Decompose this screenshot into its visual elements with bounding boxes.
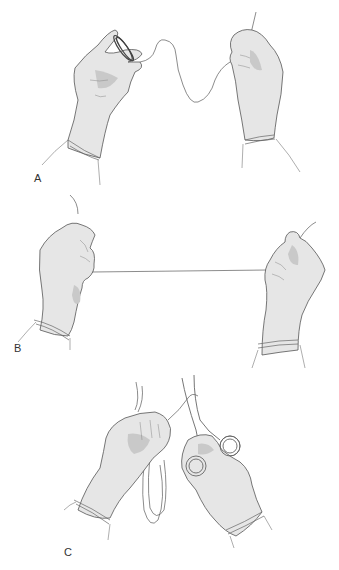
panel-a: A [0,0,339,190]
suture-handling-illustration: A B [0,0,339,570]
panel-label-b: B [14,343,21,354]
right-glove [230,30,283,141]
suture-to-scissors [168,394,198,420]
right-glove [182,435,262,536]
panel-label-c: C [64,547,72,558]
panel-b-drawing [0,190,339,370]
right-sleeve [242,139,300,172]
left-glove [68,30,142,158]
panel-b: B [0,190,339,370]
panel-a-drawing [0,0,339,190]
panel-c-drawing [0,370,339,570]
right-suture-end [300,222,316,238]
suture-end-1 [135,382,138,410]
panel-label-a: A [34,173,41,184]
left-glove [78,412,171,518]
panel-c: C [0,370,339,570]
scissor-ring-right-inner [223,439,237,453]
taut-suture [92,270,268,272]
scissor-blade-right [194,375,220,440]
suture-end-2 [138,386,143,412]
left-suture-end [70,195,78,214]
left-glove [39,223,95,336]
